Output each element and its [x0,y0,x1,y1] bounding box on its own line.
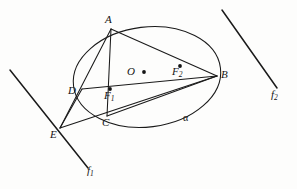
label-conic-alpha: α [183,113,188,123]
figure-canvas [0,0,297,189]
label-line-f1: f1 [87,165,94,178]
label-focus-f1-base: F [104,89,111,101]
line-f2 [222,10,277,88]
geometry-figure: A B C D E O F1 F2 f1 f2 α [0,0,297,189]
label-point-d: D [68,85,76,96]
label-focus-f1-subscript: 1 [111,94,115,103]
label-focus-f2: F2 [172,66,182,79]
label-point-a: A [105,14,112,25]
label-line-f1-subscript: 1 [90,169,94,178]
label-line-f2-subscript: 2 [274,93,278,102]
label-line-f2: f2 [271,89,278,102]
label-center-o: O [127,66,135,77]
label-focus-f1: F1 [104,90,114,103]
point-dot-o [142,70,146,74]
label-point-e: E [50,129,57,140]
label-point-b: B [221,69,228,80]
label-point-c: C [102,117,109,128]
label-focus-f2-base: F [172,65,179,77]
label-focus-f2-subscript: 2 [179,70,183,79]
line-f1 [10,70,88,168]
